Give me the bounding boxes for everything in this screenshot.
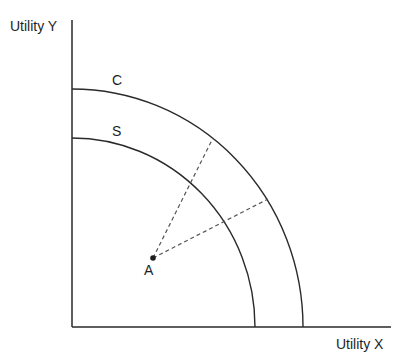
dashed-line-lower — [153, 199, 268, 258]
point-a-dot — [150, 255, 156, 261]
curve-s — [72, 138, 255, 327]
utility-possibility-diagram — [0, 0, 407, 362]
y-axis-label: Utility Y — [10, 19, 57, 33]
curve-c — [72, 89, 303, 327]
point-a-label: A — [144, 263, 153, 277]
dashed-line-upper — [153, 138, 213, 258]
curve-s-label: S — [112, 124, 121, 138]
curve-c-label: C — [112, 73, 122, 87]
x-axis-label: Utility X — [336, 337, 383, 351]
